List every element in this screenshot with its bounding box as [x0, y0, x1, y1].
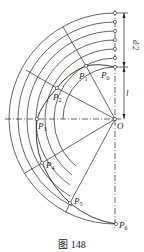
point-p0: [113, 65, 116, 68]
division-point: [113, 47, 116, 50]
division-point: [113, 38, 116, 41]
ray-p4: [42, 119, 115, 163]
label-p2: P2: [52, 92, 62, 103]
arrow-down-mid: [123, 62, 126, 67]
arc-7: [9, 13, 116, 224]
point-p4: [40, 161, 43, 164]
arc-5: [27, 31, 115, 196]
arrow-up-top: [123, 13, 126, 18]
ray-p5: [70, 119, 115, 203]
point-p6: [114, 222, 117, 225]
involute-diagram: P0 P1 P2 P3 P4 P5 P6 O d/2 l: [0, 0, 144, 252]
label-p5: P5: [73, 196, 83, 207]
arrow-down-bottom: [123, 114, 126, 119]
point-p1: [84, 64, 87, 67]
label-o: O: [117, 121, 124, 131]
division-point: [113, 11, 116, 14]
arrow-up-mid: [123, 67, 126, 72]
division-point: [113, 20, 116, 23]
arc-6: [18, 22, 115, 206]
tangent-1: [63, 27, 86, 66]
label-p6: P6: [118, 220, 128, 231]
division-point: [113, 56, 116, 59]
label-l: l: [126, 88, 129, 98]
point-p2: [55, 86, 58, 89]
label-p4: P4: [45, 160, 55, 171]
figure-caption: 图 148: [0, 236, 144, 251]
label-p1: P1: [78, 71, 88, 82]
label-p0: P0: [100, 70, 110, 81]
tangent-2: [26, 70, 57, 88]
division-point: [113, 29, 116, 32]
point-p5: [68, 201, 71, 204]
label-d-half: d/2: [131, 40, 140, 50]
